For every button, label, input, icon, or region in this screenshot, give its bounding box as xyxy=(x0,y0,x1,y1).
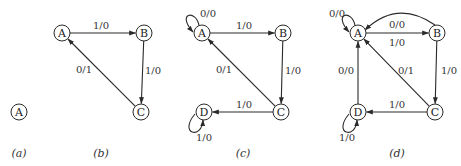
state-label: D xyxy=(354,106,363,119)
state-node-a: A xyxy=(350,25,366,41)
edge-label: 1/0 xyxy=(389,37,405,48)
state-node-b: B xyxy=(136,25,152,41)
edge-b-to-c-panel-3 xyxy=(435,41,437,104)
edge-label: 0/1 xyxy=(76,64,92,75)
labels-layer: (a)1/01/00/1(b)0/01/01/00/11/01/0(c)0/00… xyxy=(11,8,457,160)
edge-label: 1/0 xyxy=(236,20,252,31)
panel-caption: (b) xyxy=(93,147,109,160)
state-label: A xyxy=(57,27,67,40)
edge-label: 1/0 xyxy=(236,99,252,110)
state-label: B xyxy=(279,27,287,40)
panel-caption: (d) xyxy=(389,147,405,160)
edge-label: 0/1 xyxy=(398,65,414,76)
edge-label: 0/1 xyxy=(216,64,232,75)
state-node-a: A xyxy=(54,25,70,41)
edge-label: 1/0 xyxy=(145,65,161,76)
state-node-c: C xyxy=(427,104,443,120)
edges-layer xyxy=(68,13,437,132)
state-node-d: D xyxy=(350,104,366,120)
state-label: A xyxy=(353,27,363,40)
state-label: C xyxy=(431,106,439,119)
edge-c-to-a-panel-3 xyxy=(364,39,429,106)
state-label: B xyxy=(433,27,441,40)
state-node-c: C xyxy=(133,104,149,120)
state-node-a: A xyxy=(194,25,210,41)
edge-label: 0/0 xyxy=(200,8,216,19)
state-label: A xyxy=(197,27,207,40)
edge-label: 0/0 xyxy=(338,65,354,76)
state-node-b: B xyxy=(429,25,445,41)
edge-label: 1/0 xyxy=(441,65,457,76)
edge-label: 1/0 xyxy=(285,65,301,76)
edge-label: 1/0 xyxy=(389,99,405,110)
edge-b-to-c-panel-1 xyxy=(141,41,143,104)
edge-b-to-c-panel-2 xyxy=(281,41,283,104)
state-node-a: A xyxy=(11,104,27,120)
state-label: D xyxy=(200,106,209,119)
state-diagram-canvas: AABCABCDABCD (a)1/01/00/1(b)0/01/01/00/1… xyxy=(0,0,461,166)
panel-caption: (a) xyxy=(11,147,26,160)
edge-label: 1/0 xyxy=(93,20,109,31)
edge-label: 1/0 xyxy=(196,132,212,143)
state-node-c: C xyxy=(273,104,289,120)
state-label: B xyxy=(140,27,148,40)
state-node-b: B xyxy=(275,25,291,41)
panel-caption: (c) xyxy=(236,147,251,160)
state-node-d: D xyxy=(196,104,212,120)
state-label: C xyxy=(137,106,145,119)
edge-label: 0/0 xyxy=(329,8,345,19)
edge-label: 0/0 xyxy=(389,19,405,30)
edge-label: 1/0 xyxy=(339,132,355,143)
state-label: C xyxy=(277,106,285,119)
state-label: A xyxy=(14,106,24,119)
